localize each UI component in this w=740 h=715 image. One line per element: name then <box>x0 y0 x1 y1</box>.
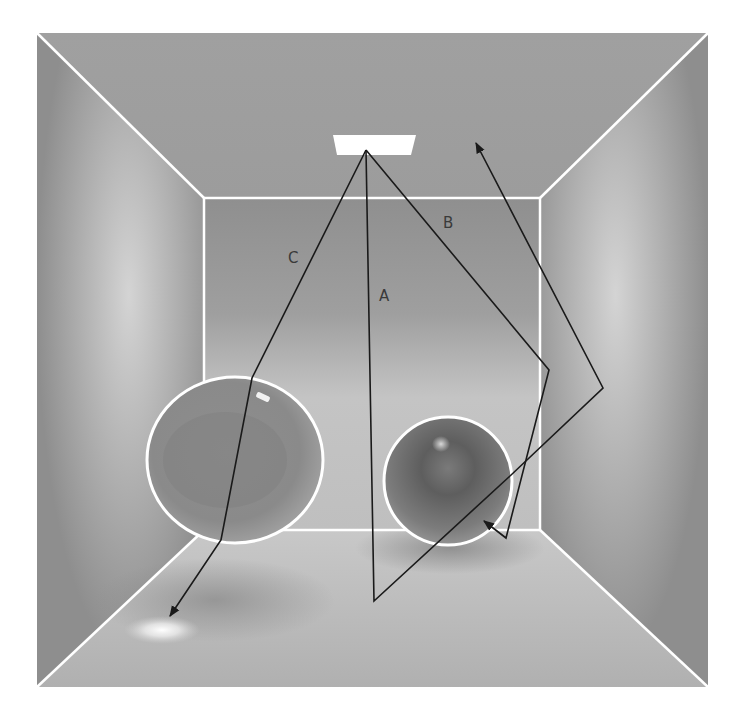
light-source <box>333 135 416 155</box>
cornell-box-diagram: A B C <box>0 0 740 715</box>
diffuse-sphere-highlight <box>432 436 450 452</box>
caustic-highlight <box>124 616 200 644</box>
ray-label-a: A <box>379 287 390 305</box>
ray-label-b: B <box>443 214 453 232</box>
ray-label-c: C <box>288 249 298 267</box>
glass-sphere-inner-tint <box>163 412 287 508</box>
diffuse-sphere <box>384 417 512 545</box>
